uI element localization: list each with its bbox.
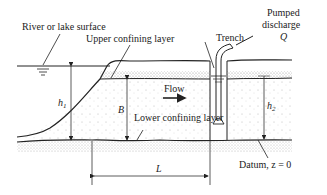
h1-label: h1 [58, 98, 67, 110]
h1-subscript: 1 [63, 102, 67, 110]
upper-confining-layer [100, 71, 210, 79]
h2-label: h2 [267, 101, 276, 113]
b-label: B [118, 105, 124, 115]
river-surface-label: River or lake surface [22, 22, 106, 32]
aquifer-region-right [227, 79, 292, 139]
upper-confining-layer-label: Upper confining layer [86, 34, 174, 44]
l-label: L [156, 164, 162, 174]
pumped-discharge-label-line2: discharge [262, 20, 300, 30]
lower-confining-layer [17, 140, 292, 152]
datum-label: Datum, z = 0 [239, 160, 291, 170]
trench-label: Trench [216, 33, 244, 43]
flow-label: Flow [164, 84, 185, 94]
pumped-discharge-label-line1: Pumped [267, 8, 300, 18]
lower-confining-layer-label: Lower confining layer [134, 113, 223, 123]
h2-subscript: 2 [272, 105, 276, 113]
discharge-symbol-q: Q [280, 32, 287, 42]
